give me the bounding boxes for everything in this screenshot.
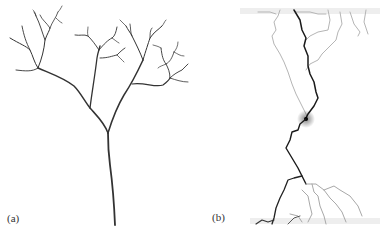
panel-a-label: (a) [7, 212, 19, 224]
panel-b: (b) [190, 0, 381, 235]
panel-a: (a) [0, 0, 190, 235]
panel-b-label: (b) [212, 211, 225, 223]
tree-diagram [0, 0, 190, 235]
discharge-path-diagram [190, 0, 381, 235]
